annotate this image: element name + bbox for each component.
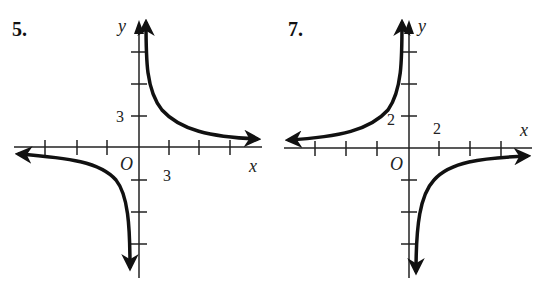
graph-7: 7. y x O 2 2 (284, 16, 532, 278)
x-axis-label: x (248, 156, 257, 176)
hyperbola-branch-q3 (18, 154, 130, 268)
problem-number: 5. (12, 18, 27, 40)
y-tick-label: 2 (387, 111, 395, 128)
graph-5: 5. y x O 3 3 (12, 16, 262, 278)
x-axis-label: x (519, 120, 528, 140)
origin-label: O (390, 154, 403, 174)
figure: 5. y x O 3 3 (0, 0, 537, 291)
origin-label: O (120, 154, 133, 174)
hyperbola-branch-q2 (288, 22, 402, 140)
hyperbola-branch-q1 (146, 22, 258, 139)
x-tick-label: 2 (433, 120, 441, 137)
hyperbola-branch-q4 (416, 156, 528, 272)
y-axis-arrow (134, 20, 144, 34)
y-tick-label: 3 (116, 108, 124, 125)
problem-number: 7. (288, 18, 303, 40)
y-axis-arrow (404, 20, 414, 34)
y-axis-label: y (116, 16, 126, 36)
y-axis-label: y (416, 16, 426, 36)
x-tick-label: 3 (163, 167, 171, 184)
